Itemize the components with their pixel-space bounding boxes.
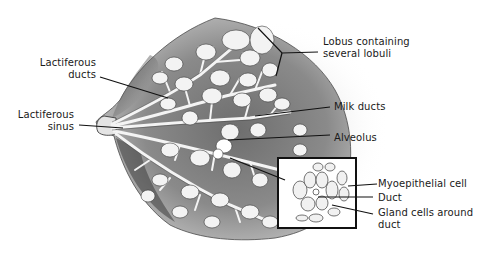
label-duct: Duct: [378, 192, 402, 204]
label-myoepithelial-cell: Myoepithelial cell: [378, 178, 467, 190]
label-lactiferous-sinus: Lactiferous sinus: [10, 109, 74, 133]
label-alveolus: Alveolus: [334, 132, 377, 144]
inset-alveolus: [278, 158, 356, 228]
label-lactiferous-ducts: Lactiferous ducts: [32, 57, 96, 81]
breast-anatomy-diagram: Lactiferous ducts Lactiferous sinus Lobu…: [0, 0, 491, 255]
label-gland-cells: Gland cells around duct: [378, 207, 473, 231]
label-milk-ducts: Milk ducts: [334, 101, 385, 113]
label-lobus: Lobus containing several lobuli: [323, 36, 410, 60]
